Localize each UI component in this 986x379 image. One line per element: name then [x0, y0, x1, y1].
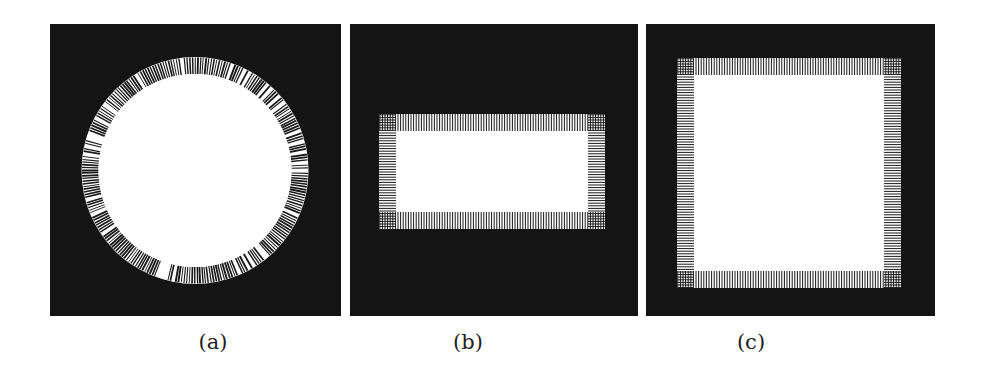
rectangle-boundary-diagram: [350, 24, 638, 316]
panel-b-rectangle: [350, 24, 638, 316]
square-boundary-diagram: [646, 24, 935, 316]
caption-c: (c): [737, 330, 765, 354]
figure: (a) (b) (c): [0, 0, 986, 379]
caption-b: (b): [453, 330, 483, 354]
circle-boundary-diagram: [50, 24, 341, 316]
panel-c-square: [646, 24, 935, 316]
panel-a-circle: [50, 24, 341, 316]
caption-a: (a): [199, 330, 228, 354]
